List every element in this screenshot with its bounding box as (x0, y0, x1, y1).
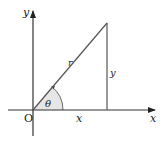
angle-label: θ (45, 98, 51, 109)
y-axis-label: y (22, 6, 30, 19)
hypotenuse-label: r (68, 58, 73, 68)
adjacent-label: x (76, 112, 83, 125)
origin-label: O (24, 112, 33, 125)
opposite-label: y (109, 67, 116, 78)
x-axis-label: x (150, 112, 157, 125)
diagram: y x O r y x θ (0, 0, 161, 143)
